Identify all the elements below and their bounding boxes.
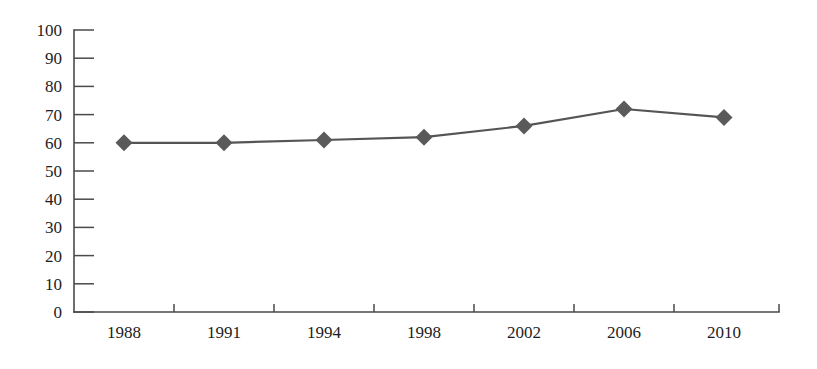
y-axis-tick-label: 30 xyxy=(45,218,62,237)
y-axis-tick-label: 100 xyxy=(37,21,63,40)
y-axis-tick-label: 80 xyxy=(45,77,62,96)
x-axis-tick-label: 1988 xyxy=(107,323,141,342)
y-axis-tick-label: 60 xyxy=(45,134,62,153)
x-axis-tick-label: 1998 xyxy=(407,323,441,342)
x-axis-tick-label: 2006 xyxy=(607,323,641,342)
y-axis-tick-label: 70 xyxy=(45,106,62,125)
x-axis-tick-label: 1994 xyxy=(307,323,342,342)
y-axis-tick-label: 20 xyxy=(45,247,62,266)
y-axis-tick-label: 10 xyxy=(45,275,62,294)
chart-canvas: 0102030405060708090100 19881991199419982… xyxy=(0,0,817,369)
x-axis-tick-label: 1991 xyxy=(207,323,241,342)
y-axis-tick-label: 90 xyxy=(45,49,62,68)
x-axis-tick-label: 2002 xyxy=(507,323,541,342)
line-chart: 0102030405060708090100 19881991199419982… xyxy=(0,0,817,369)
y-axis-tick-label: 0 xyxy=(54,303,63,322)
y-axis-tick-label: 40 xyxy=(45,190,62,209)
x-axis-tick-label: 2010 xyxy=(707,323,741,342)
chart-background xyxy=(0,0,817,369)
y-axis-tick-label: 50 xyxy=(45,162,62,181)
